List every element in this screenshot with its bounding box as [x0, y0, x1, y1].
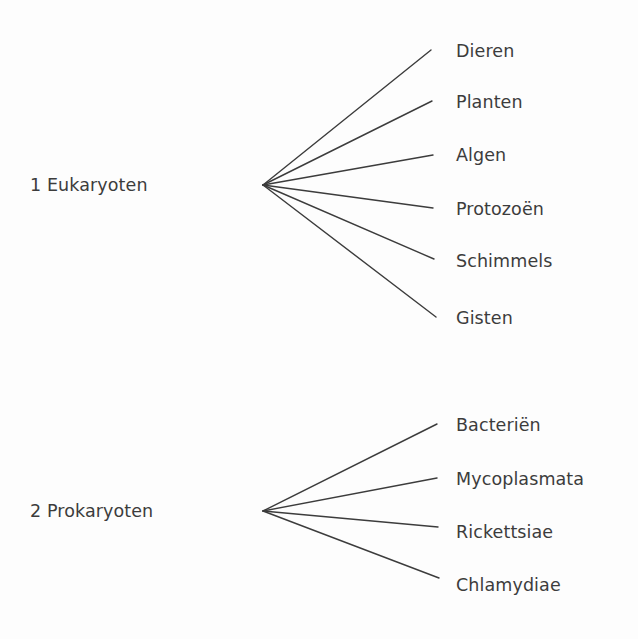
branch-line-eukaryoten-3	[263, 185, 433, 208]
branch-line-eukaryoten-5	[263, 185, 436, 317]
branch-line-prokaryoten-0	[263, 424, 437, 511]
branch-line-eukaryoten-4	[263, 185, 434, 259]
branch-line-eukaryoten-2	[263, 155, 433, 185]
leaf-label-prokaryoten-1: Mycoplasmata	[456, 471, 584, 489]
leaf-label-prokaryoten-3: Chlamydiae	[456, 577, 561, 595]
group-label-eukaryoten: 1 Eukaryoten	[30, 177, 148, 195]
branch-line-prokaryoten-3	[263, 511, 439, 578]
diagram-root: 1 Eukaryoten 2 Prokaryoten DierenPlanten…	[0, 0, 638, 639]
branch-line-prokaryoten-2	[263, 511, 438, 527]
leaf-label-eukaryoten-0: Dieren	[456, 43, 514, 61]
group-label-prokaryoten: 2 Prokaryoten	[30, 503, 153, 521]
leaf-label-eukaryoten-1: Planten	[456, 94, 523, 112]
leaf-label-prokaryoten-0: Bacteriën	[456, 417, 541, 435]
branch-line-prokaryoten-1	[263, 478, 437, 511]
leaf-label-eukaryoten-5: Gisten	[456, 310, 513, 328]
leaf-label-eukaryoten-3: Protozoën	[456, 201, 544, 219]
fan-connector-lines	[0, 0, 638, 639]
leaf-label-eukaryoten-4: Schimmels	[456, 253, 552, 271]
leaf-label-prokaryoten-2: Rickettsiae	[456, 524, 553, 542]
leaf-label-eukaryoten-2: Algen	[456, 147, 506, 165]
branch-line-eukaryoten-1	[263, 101, 432, 185]
branch-line-eukaryoten-0	[263, 50, 431, 185]
